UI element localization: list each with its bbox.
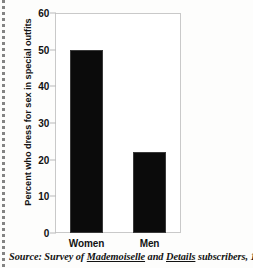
y-tick-mark [50,159,56,160]
chart-area: Percent who dress for sex in special out… [0,0,253,236]
y-tick-mark [50,13,56,14]
source-suffix: subscribers, 1993 [195,251,253,262]
bar-women [70,50,103,233]
y-tick-mark [50,123,56,124]
source-conjunction: and [145,251,166,262]
x-category-label-women: Women [69,238,104,249]
y-tick-label: 40 [9,81,49,92]
y-tick-label: 20 [9,154,49,165]
source-publication-2: Details [166,251,195,262]
y-tick-mark [50,233,56,234]
y-tick-mark [50,86,56,87]
y-tick-label: 50 [9,44,49,55]
y-tick-mark [50,196,56,197]
y-tick-label: 30 [9,118,49,129]
x-category-label-men: Men [140,238,160,249]
y-tick-label: 60 [9,8,49,19]
bar-men [133,152,166,233]
y-tick-label: 0 [9,228,49,239]
source-prefix: Source: Survey of [9,251,87,262]
y-tick-label: 10 [9,191,49,202]
y-tick-mark [50,49,56,50]
y-axis-label: Percent who dress for sex in special out… [23,1,33,223]
source-note: Source: Survey of Mademoiselle and Detai… [9,251,253,262]
source-publication-1: Mademoiselle [87,251,145,262]
figure-bar-chart: Percent who dress for sex in special out… [0,0,253,268]
